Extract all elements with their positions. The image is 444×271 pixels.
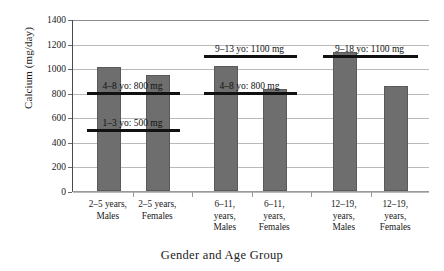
- y-axis-tick-mark: [68, 192, 72, 193]
- y-gridline: [73, 69, 429, 70]
- y-axis-tick-label: 800: [26, 89, 66, 99]
- bar: [333, 52, 357, 191]
- x-axis-category-label: 12–19, years, Females: [359, 199, 431, 234]
- y-axis-tick-label: 400: [26, 138, 66, 148]
- y-gridline: [73, 20, 429, 21]
- y-axis-tick-label: 1400: [26, 15, 66, 25]
- y-gridline: [73, 167, 429, 168]
- x-axis-category-label: 2–5 years, Females: [121, 199, 193, 222]
- reference-line-label: 9–18 yo: 1100 mg: [322, 44, 418, 54]
- reference-line: [323, 55, 419, 58]
- y-axis-tick-label: 0: [26, 187, 66, 197]
- y-axis-tick-mark: [68, 45, 72, 46]
- reference-line: [87, 129, 181, 132]
- y-axis-tick-mark: [68, 143, 72, 144]
- y-axis-tick-mark: [68, 167, 72, 168]
- y-axis-tick-mark: [68, 69, 72, 70]
- x-axis-tick-mark: [311, 192, 312, 197]
- y-axis-tick-label: 600: [26, 113, 66, 123]
- y-axis-tick-mark: [68, 20, 72, 21]
- bar: [263, 89, 287, 191]
- y-axis-tick-label: 200: [26, 162, 66, 172]
- y-axis-tick-label: 1000: [26, 64, 66, 74]
- x-axis-tick-mark: [133, 192, 134, 197]
- x-axis-category-label: 6–11, years, Females: [238, 199, 310, 234]
- y-axis-tick-mark: [68, 94, 72, 95]
- x-axis-tick-mark: [371, 192, 372, 197]
- reference-line-label: 9–13 yo: 1100 mg: [203, 44, 297, 54]
- x-axis-title: Gender and Age Group: [0, 248, 444, 263]
- reference-line-label: 1–3 yo: 500 mg: [86, 118, 180, 128]
- reference-line: [204, 55, 298, 58]
- x-axis-tick-mark: [252, 192, 253, 197]
- calcium-intake-bar-chart: Calcium (mg/day) Gender and Age Group 14…: [0, 0, 444, 271]
- reference-line-label: 4–8 yo: 800 mg: [86, 81, 180, 91]
- reference-line: [204, 92, 298, 95]
- x-axis-tick-mark: [192, 192, 193, 197]
- bar: [384, 86, 408, 191]
- reference-line-label: 4–8 yo: 800 mg: [203, 81, 297, 91]
- y-axis-tick-mark: [68, 118, 72, 119]
- y-gridline: [73, 143, 429, 144]
- y-axis-tick-label: 1200: [26, 40, 66, 50]
- reference-line: [87, 92, 181, 95]
